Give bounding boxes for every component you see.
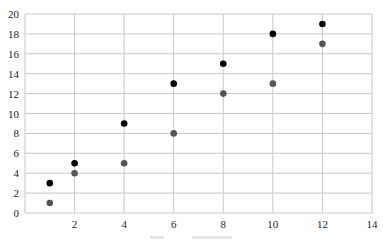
x-tick-label: 2 — [72, 218, 78, 230]
scatter-chart: 02468101214161820 2468101214 — [0, 0, 383, 243]
data-point-series-2 — [270, 80, 277, 87]
data-point-series-1 — [46, 180, 53, 187]
data-point-series-1 — [170, 80, 177, 87]
data-point-series-1 — [121, 120, 128, 127]
figure-caption-faint — [150, 236, 164, 239]
y-tick-label: 8 — [14, 127, 20, 139]
y-tick-label: 6 — [14, 147, 20, 159]
x-axis-ticks: 2468101214 — [72, 218, 378, 230]
data-point-series-2 — [170, 130, 177, 137]
y-tick-label: 0 — [14, 207, 20, 219]
y-tick-label: 12 — [8, 88, 19, 100]
data-point-series-1 — [71, 160, 78, 167]
x-tick-label: 14 — [367, 218, 379, 230]
data-point-series-1 — [220, 60, 227, 67]
y-tick-label: 18 — [8, 28, 20, 40]
y-tick-label: 4 — [14, 167, 20, 179]
figure-caption-faint — [192, 236, 232, 239]
x-tick-label: 4 — [121, 218, 127, 230]
y-tick-label: 2 — [14, 187, 20, 199]
data-point-series-1 — [319, 21, 326, 28]
data-point-series-1 — [270, 31, 277, 38]
data-point-series-2 — [319, 41, 326, 48]
x-tick-label: 12 — [317, 218, 328, 230]
x-tick-label: 6 — [171, 218, 177, 230]
y-tick-label: 20 — [8, 8, 20, 20]
x-tick-label: 10 — [267, 218, 279, 230]
y-tick-label: 10 — [8, 108, 20, 120]
data-point-series-2 — [121, 160, 128, 167]
data-point-series-2 — [71, 170, 78, 177]
data-point-series-2 — [220, 90, 227, 97]
x-tick-label: 8 — [221, 218, 227, 230]
y-tick-label: 16 — [8, 48, 20, 60]
y-tick-label: 14 — [8, 68, 20, 80]
y-axis-ticks: 02468101214161820 — [8, 8, 20, 219]
data-point-series-2 — [46, 200, 53, 207]
